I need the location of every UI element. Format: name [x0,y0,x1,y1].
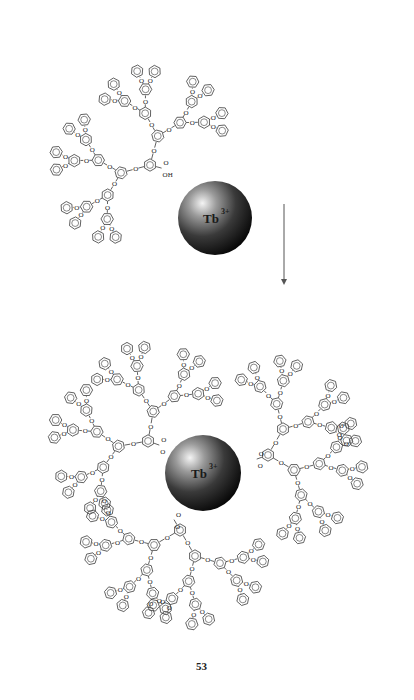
bond [314,423,317,424]
aromatic-circle [280,426,287,433]
terminal-phenyl-ring [56,470,67,482]
aromatic-circle [240,554,247,561]
oxygen-label: O [100,515,105,523]
oxygen-label: O [226,568,231,576]
oxygen-label: O [293,422,298,430]
oxygen-label: O [185,539,190,547]
aromatic-circle [83,407,90,414]
oxygen-label: O [133,165,138,173]
oxygen-label: O [178,586,183,594]
oxygen-label: O [326,511,331,519]
oxygen-label: O [74,204,79,212]
terminal-phenyl-ring [93,231,104,243]
oxygen-label: O [344,440,349,448]
bond [310,465,314,466]
aromatic-circle [359,463,366,470]
benzene-ring [178,368,189,380]
oxygen-label: O [189,364,194,372]
terminal-phenyl-ring [187,76,199,87]
terminal-phenyl-ring [237,593,249,605]
aromatic-circle [104,192,111,199]
benzene-ring [115,167,127,179]
oxygen-label: O [93,496,98,504]
bond [112,168,115,170]
aromatic-circle [124,345,131,352]
terminal-phenyl-ring [80,536,92,548]
bond [323,425,326,426]
oxygen-label: O [90,469,95,477]
oxygen-label: O [177,382,182,390]
terminal-phenyl-ring [235,374,247,386]
terminal-phenyl-ring [149,65,160,77]
aromatic-circle [53,166,60,173]
aromatic-circle [212,380,219,387]
benzene-ring [199,116,210,128]
oxygen-label: O [190,589,195,597]
oxygen-label: O [332,398,337,406]
oxygen-label: O [255,374,260,382]
oxygen-label: O [100,476,105,484]
bond [289,426,293,427]
oxygen-label: O [347,474,352,482]
oxygen-label: O [279,367,284,375]
aromatic-circle [149,590,156,597]
aromatic-circle [328,424,335,431]
terminal-phenyl-ring [325,380,337,392]
terminal-phenyl-ring [48,432,60,444]
benzene-ring [295,489,307,501]
aromatic-circle [177,119,184,126]
aromatic-circle [188,621,195,628]
benzene-ring [102,189,113,201]
aromatic-circle [87,555,94,562]
oxygen-label: O [181,361,186,369]
oxygen-label: O [317,421,322,429]
aromatic-circle [321,401,328,408]
terminal-phenyl-ring [356,461,368,473]
bond [144,543,148,544]
bond [137,109,139,110]
oxygen-label: O [198,92,203,100]
bond [110,441,113,443]
aromatic-circle [94,376,101,383]
aromatic-circle [112,234,119,241]
aromatic-circle [280,377,287,384]
aromatic-circle [89,512,96,519]
aromatic-circle [352,437,359,444]
oxygen-label: O [328,464,333,472]
carboxylate-oxygen-label: O [258,462,263,470]
terminal-phenyl-ring [108,78,119,90]
aromatic-circle [65,489,72,496]
benzene-ring [148,540,160,551]
terminal-phenyl-ring [86,510,98,522]
bond [166,400,169,402]
terminal-phenyl-ring [132,65,143,77]
aromatic-circle [83,136,90,143]
carbonyl-oxygen-label: O [164,159,169,167]
carbonyl-oxygen-label: O [259,450,264,458]
oxygen-label: O [237,586,242,594]
aromatic-circle [185,578,192,585]
oxygen-label: O [109,225,114,233]
oxygen-label: O [190,119,195,127]
carboxyl-bond [156,167,162,169]
oxygen-label: O [61,430,66,438]
terminal-phenyl-ring [248,361,260,373]
terminal-phenyl-ring [110,231,121,243]
aromatic-circle [145,438,152,445]
benzene-ring [69,154,80,166]
oxygen-label: O [288,370,293,378]
aromatic-circle [135,386,142,393]
aromatic-circle [134,68,141,75]
benzene-ring [118,96,130,107]
terminal-phenyl-ring [139,341,151,353]
oxygen-label: O [118,527,123,535]
oxygen-label: O [124,593,129,601]
terminal-phenyl-ring [78,114,90,125]
aromatic-circle [279,530,286,537]
benzene-ring [81,133,92,145]
benzene-ring [214,557,226,569]
aromatic-circle [316,460,323,467]
aromatic-circle [181,371,188,378]
bond [171,126,174,128]
bond [334,468,337,469]
